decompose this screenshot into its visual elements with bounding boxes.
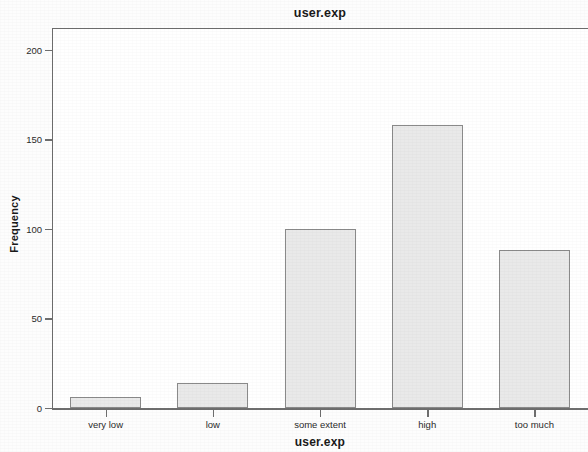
y-axis-tick-label: 200 — [0, 44, 42, 55]
y-axis-tick — [45, 50, 52, 51]
bar — [285, 229, 356, 408]
y-axis-tick — [45, 229, 52, 230]
y-axis-title: Frequency — [8, 184, 20, 264]
y-axis-tick-label: 50 — [0, 313, 42, 324]
bar — [499, 250, 570, 408]
y-axis-tick — [45, 139, 52, 140]
bar — [392, 125, 463, 408]
x-axis-tick-label: high — [418, 419, 436, 430]
x-axis-tick — [320, 409, 321, 417]
x-axis-title: user.exp — [52, 435, 588, 449]
y-axis-tick-label: 100 — [0, 223, 42, 234]
y-axis-tick-label: 150 — [0, 134, 42, 145]
x-axis-tick-label: too much — [515, 419, 554, 430]
x-axis-tick — [106, 409, 107, 417]
x-axis-tick — [213, 409, 214, 417]
x-axis-tick — [534, 409, 535, 417]
x-axis-tick — [427, 409, 428, 417]
y-axis-tick — [45, 318, 52, 319]
bar — [70, 397, 141, 408]
x-axis-tick-label: low — [206, 419, 220, 430]
y-axis-tick — [45, 408, 52, 409]
y-axis-tick-label: 0 — [0, 403, 42, 414]
histogram-chart: user.exp 050100150200 Frequency very low… — [0, 0, 588, 452]
chart-title: user.exp — [52, 6, 588, 20]
x-axis-tick-label: some extent — [294, 419, 346, 430]
x-axis-tick-label: very low — [88, 419, 123, 430]
bar — [177, 383, 248, 408]
